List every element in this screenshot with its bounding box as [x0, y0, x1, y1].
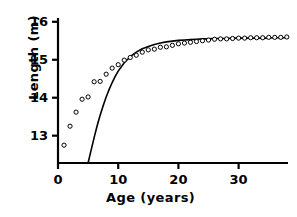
data-point-marker	[68, 124, 72, 128]
data-point-marker	[200, 39, 204, 43]
data-point-marker	[80, 97, 84, 101]
data-point-marker	[285, 35, 289, 39]
data-point-marker	[206, 38, 210, 42]
data-point-marker	[218, 37, 222, 41]
data-point-marker	[134, 53, 138, 57]
data-point-marker	[273, 35, 277, 39]
data-point-marker	[243, 36, 247, 40]
data-point-marker	[231, 36, 235, 40]
data-point-marker	[194, 39, 198, 43]
y-axis-label: Length (m)	[26, 3, 41, 113]
data-point-marker	[255, 36, 259, 40]
data-point-marker	[152, 47, 156, 51]
data-point-marker	[158, 45, 162, 49]
data-point-marker	[188, 40, 192, 44]
figure-container: 13141516 0102030 Length (m) Age (years)	[0, 0, 297, 217]
data-point-marker	[104, 72, 108, 76]
data-point-marker	[164, 45, 168, 49]
data-point-marker	[249, 36, 253, 40]
data-point-marker	[224, 37, 228, 41]
data-point-marker	[110, 66, 114, 70]
data-point-marker	[140, 50, 144, 54]
data-point-marker	[116, 63, 120, 67]
x-tick-label: 20	[169, 172, 187, 187]
data-point-marker	[176, 42, 180, 46]
data-point-marker	[146, 48, 150, 52]
data-point-marker	[182, 41, 186, 45]
fitted-curve-path	[88, 38, 287, 163]
data-point-marker	[237, 36, 241, 40]
data-point-marker	[212, 37, 216, 41]
data-point-marker	[62, 143, 66, 147]
y-tick-label: 13	[30, 128, 48, 143]
data-point-marker	[261, 36, 265, 40]
data-point-marker	[279, 35, 283, 39]
data-point-marker	[86, 95, 90, 99]
x-tick-label: 30	[230, 172, 248, 187]
x-axis-label: Age (years)	[106, 190, 195, 205]
x-tick-group: 0102030	[53, 163, 247, 187]
data-point-marker	[98, 79, 102, 83]
fitted-curve-group	[88, 38, 287, 163]
data-point-marker	[267, 35, 271, 39]
data-point-marker	[122, 58, 126, 62]
x-tick-label: 0	[53, 172, 62, 187]
chart-canvas: 13141516 0102030	[0, 0, 297, 217]
x-tick-label: 10	[109, 172, 127, 187]
data-point-marker	[74, 110, 78, 114]
data-point-marker	[92, 80, 96, 84]
data-point-marker	[170, 43, 174, 47]
data-point-marker	[128, 55, 132, 59]
